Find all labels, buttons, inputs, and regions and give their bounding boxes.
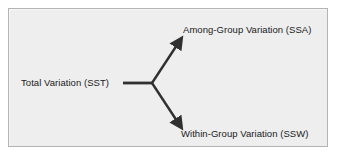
figure-canvas: Total Variation (SST) Among-Group Variat… [0, 0, 342, 161]
among-group-variation-label: Among-Group Variation (SSA) [183, 24, 311, 35]
within-group-variation-label: Within-Group Variation (SSW) [181, 128, 308, 139]
total-variation-label: Total Variation (SST) [21, 77, 109, 88]
arrow-to-among-group [152, 45, 177, 83]
diagram-panel: Total Variation (SST) Among-Group Variat… [8, 8, 328, 147]
arrow-to-within-group [152, 83, 177, 121]
